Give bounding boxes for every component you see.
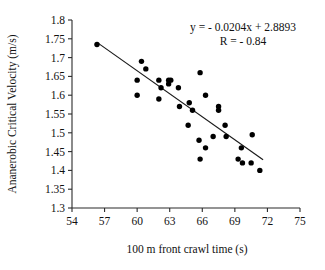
regression-line-group <box>97 42 263 159</box>
data-point <box>248 160 253 165</box>
data-point <box>222 123 227 128</box>
data-point <box>257 168 262 173</box>
x-tick-label: 69 <box>229 215 241 227</box>
data-point <box>94 42 99 47</box>
y-tick-label: 1.8 <box>51 14 66 26</box>
data-point <box>196 138 201 143</box>
x-axis-ticks: 5457606366697275 <box>66 208 306 227</box>
data-point <box>190 108 195 113</box>
data-point <box>203 145 208 150</box>
y-tick-label: 1.7 <box>51 52 66 64</box>
data-point <box>185 123 190 128</box>
regression-equation-label: y = - 0.0204x + 2.8893 <box>190 21 296 34</box>
y-tick-label: 1.45 <box>45 146 65 158</box>
data-point <box>197 156 202 161</box>
data-point <box>239 145 244 150</box>
x-axis-title: 100 m front crawl time (s) <box>126 243 247 256</box>
data-point <box>156 77 161 82</box>
y-tick-label: 1.6 <box>51 89 66 101</box>
data-point <box>143 66 148 71</box>
data-point <box>240 160 245 165</box>
data-point <box>235 156 240 161</box>
y-tick-label: 1.55 <box>45 108 65 120</box>
data-point <box>158 85 163 90</box>
data-point <box>187 100 192 105</box>
x-tick-label: 54 <box>66 215 78 227</box>
y-tick-label: 1.35 <box>45 183 65 195</box>
data-points-group <box>94 42 262 173</box>
y-tick-label: 1.5 <box>51 127 66 139</box>
data-point <box>203 93 208 98</box>
x-tick-label: 60 <box>131 215 143 227</box>
y-axis-ticks: 1.31.351.41.451.51.551.61.651.71.751.8 <box>45 14 72 214</box>
y-tick-label: 1.4 <box>51 164 66 176</box>
data-point <box>210 134 215 139</box>
y-axis-title: Ananerobic Critical Velocity (m/s) <box>6 34 19 193</box>
data-point <box>223 134 228 139</box>
data-point <box>134 93 139 98</box>
chart-figure: 1.31.351.41.451.51.551.61.651.71.751.8 5… <box>0 0 325 270</box>
data-point <box>250 132 255 137</box>
x-tick-label: 57 <box>99 215 111 227</box>
data-point <box>176 85 181 90</box>
x-tick-label: 72 <box>262 215 274 227</box>
y-tick-label: 1.75 <box>45 33 65 45</box>
y-tick-label: 1.3 <box>51 202 66 214</box>
regression-line <box>97 42 263 159</box>
data-point <box>156 96 161 101</box>
data-point <box>139 59 144 64</box>
scatter-plot: 1.31.351.41.451.51.551.61.651.71.751.8 5… <box>0 0 325 270</box>
data-point <box>197 70 202 75</box>
data-point <box>168 77 173 82</box>
x-tick-label: 63 <box>164 215 176 227</box>
x-tick-label: 66 <box>197 215 209 227</box>
x-tick-label: 75 <box>294 215 306 227</box>
data-point <box>177 104 182 109</box>
correlation-label: R = - 0.84 <box>220 35 267 47</box>
y-tick-label: 1.65 <box>45 70 65 82</box>
data-point <box>134 77 139 82</box>
data-point <box>216 108 221 113</box>
